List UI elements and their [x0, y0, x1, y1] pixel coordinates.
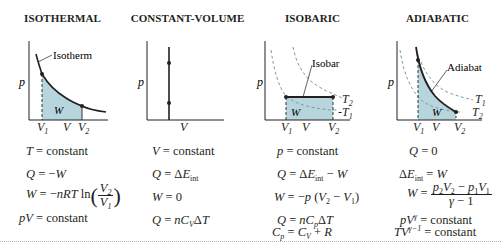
- x-tick-v: V: [180, 120, 187, 135]
- equation-2: ΔEint = W: [399, 167, 447, 182]
- axis-label-p: p: [18, 75, 25, 89]
- x-tick-v2: V2: [328, 120, 339, 135]
- pv-diagram-constant-volume: p: [125, 36, 250, 128]
- equation-2: Q = ΔEint − W: [277, 167, 347, 182]
- equation-1: T = constant: [26, 144, 88, 159]
- equation-1: p = constant: [277, 144, 338, 159]
- panel-title: CONSTANT-VOLUME: [125, 12, 250, 24]
- area-label: W: [54, 104, 64, 116]
- area-label: W: [291, 106, 301, 118]
- panel-constant-volume: CONSTANT-VOLUME p V V = constant Q = ΔEi…: [125, 0, 250, 247]
- panel-title: ISOTHERMAL: [0, 12, 125, 24]
- x-tick-v1: V1: [281, 120, 292, 135]
- curve-label: Isotherm: [53, 49, 93, 61]
- equation-3: W = −p (V2 − V1): [274, 190, 359, 205]
- area-label: W: [432, 106, 442, 118]
- axis-label-p: p: [387, 75, 394, 89]
- axis-label-p: p: [137, 75, 144, 89]
- panel-title: ISOBARIC: [250, 12, 375, 24]
- isotherm-label-t2: T2: [472, 105, 483, 120]
- pv-diagram-isothermal: Isotherm p W: [0, 36, 125, 128]
- pv-diagram-isobaric: Isobar p W: [250, 36, 375, 128]
- panel-isothermal: ISOTHERMAL Isotherm p W V1 V V2 T = cons…: [0, 0, 125, 247]
- equation-4: Q = nCVΔT: [152, 213, 209, 228]
- x-tick-v1: V1: [37, 120, 48, 135]
- curve-label: Isobar: [312, 57, 340, 69]
- isotherm-label-t1: -T1: [338, 105, 353, 120]
- x-tick-v2: V2: [78, 120, 89, 135]
- equation-5: Cp = CV + R: [272, 225, 332, 240]
- x-tick-v: V: [63, 120, 70, 135]
- equation-1: Q = 0: [409, 144, 438, 159]
- panel-title: ADIABATIC: [375, 12, 500, 24]
- equation-2: Q = −W: [26, 167, 66, 182]
- x-tick-v1: V1: [413, 120, 424, 135]
- x-tick-v: V: [432, 120, 439, 135]
- equation-3: W = −nRT ln(V2V1): [26, 182, 121, 209]
- x-tick-v: V: [302, 120, 309, 135]
- panel-isobaric: ISOBARIC Isobar p W T2 -T1 V1 V V2 p = c…: [250, 0, 375, 247]
- axis-label-p: p: [256, 75, 263, 89]
- equation-2: Q = ΔEint: [152, 167, 198, 182]
- x-tick-v2: V2: [454, 120, 465, 135]
- equation-3: W = 0: [152, 190, 182, 205]
- equation-5: TVγ−1 = constant: [394, 225, 476, 240]
- equation-1: V = constant: [152, 144, 215, 159]
- bottom-divider: [0, 241, 501, 242]
- equation-4: pV = constant: [19, 211, 88, 226]
- panel-adiabatic: ADIABATIC Adiabat p W T1 T2 V1 V V2 Q = …: [375, 0, 500, 247]
- curve-label: Adiabat: [447, 61, 482, 73]
- equation-3: W = p2V2 − p1V1γ − 1: [407, 181, 492, 208]
